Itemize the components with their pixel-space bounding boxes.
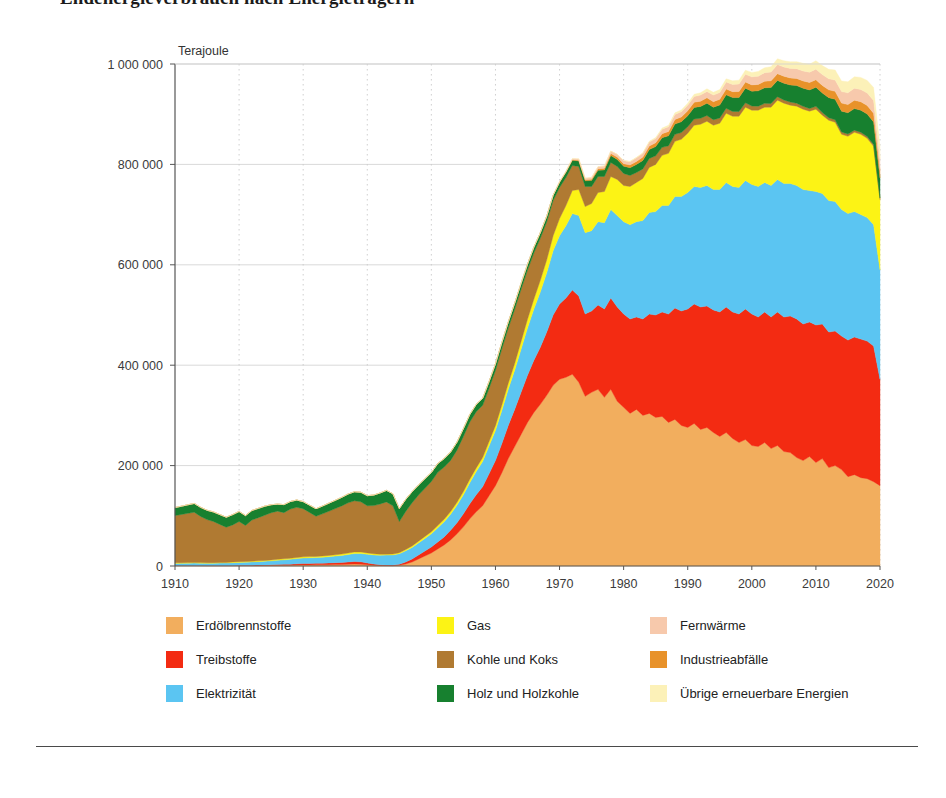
legend-label: Treibstoffe xyxy=(196,652,257,667)
y-axis-tick-label: 400 000 xyxy=(118,359,163,373)
x-axis-tick-label: 1980 xyxy=(610,577,638,591)
legend-swatch-icon xyxy=(166,685,183,702)
y-axis-tick-label: 0 xyxy=(156,560,163,574)
x-axis-tick-label: 1910 xyxy=(161,577,189,591)
legend-column-2: GasKohle und KoksHolz und Holzkohle xyxy=(437,608,579,710)
x-axis-tick-label: 2000 xyxy=(738,577,766,591)
legend-item: Gas xyxy=(437,608,579,642)
legend-label: Übrige erneuerbare Energien xyxy=(680,686,848,701)
x-axis-tick-label: 1990 xyxy=(674,577,702,591)
legend-column-1: ErdölbrennstoffeTreibstoffeElektrizität xyxy=(166,608,291,710)
legend-label: Erdölbrennstoffe xyxy=(196,618,291,633)
legend-item: Fernwärme xyxy=(650,608,848,642)
x-axis-tick-label: 1940 xyxy=(353,577,381,591)
legend-item: Treibstoffe xyxy=(166,642,291,676)
legend-column-3: FernwärmeIndustrieabfälleÜbrige erneuerb… xyxy=(650,608,848,710)
legend-label: Kohle und Koks xyxy=(467,652,558,667)
x-axis-tick-label: 1950 xyxy=(417,577,445,591)
legend-item: Elektrizität xyxy=(166,676,291,710)
legend-label: Elektrizität xyxy=(196,686,256,701)
legend-label: Fernwärme xyxy=(680,618,746,633)
x-axis-tick-label: 2020 xyxy=(866,577,894,591)
y-axis-tick-label: 800 000 xyxy=(118,158,163,172)
legend-label: Holz und Holzkohle xyxy=(467,686,579,701)
legend-item: Kohle und Koks xyxy=(437,642,579,676)
legend-swatch-icon xyxy=(650,651,667,668)
legend-item: Übrige erneuerbare Energien xyxy=(650,676,848,710)
x-axis-tick-label: 1920 xyxy=(225,577,253,591)
legend-swatch-icon xyxy=(437,685,454,702)
legend-label: Industrieabfälle xyxy=(680,652,768,667)
y-axis-tick-label: 1 000 000 xyxy=(107,58,163,72)
chart-legend: ErdölbrennstoffeTreibstoffeElektrizität … xyxy=(0,608,946,716)
y-axis-tick-label: 600 000 xyxy=(118,258,163,272)
legend-item: Industrieabfälle xyxy=(650,642,848,676)
y-axis-tick-label: 200 000 xyxy=(118,459,163,473)
legend-swatch-icon xyxy=(166,651,183,668)
x-axis-tick-label: 2010 xyxy=(802,577,830,591)
stacked-area-chart: 0200 000400 000600 000800 0001 000 00019… xyxy=(0,0,946,600)
x-axis-tick-label: 1970 xyxy=(546,577,574,591)
legend-swatch-icon xyxy=(437,651,454,668)
legend-label: Gas xyxy=(467,618,491,633)
legend-swatch-icon xyxy=(437,617,454,634)
legend-item: Holz und Holzkohle xyxy=(437,676,579,710)
legend-item: Erdölbrennstoffe xyxy=(166,608,291,642)
x-axis-tick-label: 1960 xyxy=(482,577,510,591)
footer-divider xyxy=(36,746,918,747)
x-axis-tick-label: 1930 xyxy=(289,577,317,591)
legend-swatch-icon xyxy=(650,617,667,634)
chart-plot-area: 0200 000400 000600 000800 0001 000 00019… xyxy=(0,0,946,600)
legend-swatch-icon xyxy=(166,617,183,634)
legend-swatch-icon xyxy=(650,685,667,702)
